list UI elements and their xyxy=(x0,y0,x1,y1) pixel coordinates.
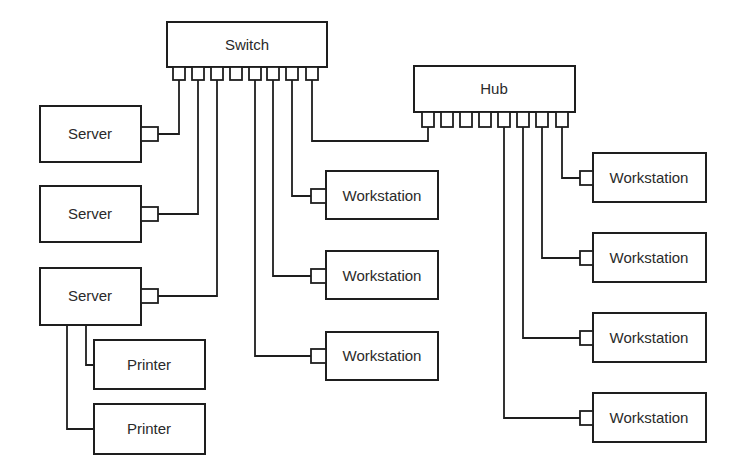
server-port xyxy=(141,289,158,303)
server-label: Server xyxy=(68,125,112,142)
network-diagram: Switch Hub Server xyxy=(0,0,738,472)
hub-node[interactable]: Hub xyxy=(414,66,575,127)
wire-switch-hub xyxy=(312,80,428,141)
hub-workstation-node-4[interactable]: Workstation xyxy=(580,393,706,442)
server-label: Server xyxy=(68,205,112,222)
wire-server-printer-2 xyxy=(67,325,94,429)
switch-port-5 xyxy=(249,67,261,80)
workstation-label: Workstation xyxy=(343,347,422,364)
switch-port-4 xyxy=(230,67,242,80)
hub-port-3 xyxy=(460,112,472,127)
workstation-label: Workstation xyxy=(610,249,689,266)
switch-port-6 xyxy=(267,67,279,80)
hub-workstation-node-1[interactable]: Workstation xyxy=(580,153,706,202)
printer-label: Printer xyxy=(127,420,171,437)
switch-workstation-node-2[interactable]: Workstation xyxy=(311,251,438,299)
hub-port-7 xyxy=(536,112,548,127)
switch-port-2 xyxy=(192,67,204,80)
switch-ports xyxy=(173,67,318,80)
workstation-label: Workstation xyxy=(610,409,689,426)
hub-port-6 xyxy=(517,112,529,127)
wire-server-printer-1 xyxy=(86,325,94,365)
wire-switch-server-3 xyxy=(158,80,217,296)
switch-port-8 xyxy=(306,67,318,80)
workstation-label: Workstation xyxy=(343,187,422,204)
switch-label: Switch xyxy=(225,36,269,53)
hub-port-1 xyxy=(422,112,434,127)
switch-node[interactable]: Switch xyxy=(167,22,327,80)
workstation-port xyxy=(580,251,593,265)
wire-switch-workstation-3 xyxy=(255,80,311,356)
hub-ports xyxy=(422,112,568,127)
workstation-port xyxy=(580,331,593,345)
hub-port-8 xyxy=(556,112,568,127)
server-node-1[interactable]: Server xyxy=(40,106,158,162)
workstation-label: Workstation xyxy=(343,267,422,284)
wire-hub-workstation-1 xyxy=(562,127,580,178)
hub-port-5 xyxy=(498,112,510,127)
switch-port-1 xyxy=(173,67,185,80)
hub-label: Hub xyxy=(480,80,508,97)
server-label: Server xyxy=(68,287,112,304)
server-node-3[interactable]: Server xyxy=(40,268,158,325)
workstation-port xyxy=(580,171,593,185)
wire-switch-workstation-1 xyxy=(292,80,311,196)
hub-workstation-node-2[interactable]: Workstation xyxy=(580,233,706,282)
workstation-label: Workstation xyxy=(610,169,689,186)
workstation-port xyxy=(311,189,326,203)
server-port xyxy=(141,207,158,221)
workstation-port xyxy=(311,269,326,283)
wire-switch-server-2 xyxy=(158,80,198,214)
printer-node-2[interactable]: Printer xyxy=(94,404,205,454)
workstation-port xyxy=(311,349,326,363)
server-port xyxy=(141,127,158,141)
wire-hub-workstation-2 xyxy=(542,127,580,258)
switch-port-3 xyxy=(211,67,223,80)
printer-node-1[interactable]: Printer xyxy=(94,340,205,389)
switch-workstation-node-1[interactable]: Workstation xyxy=(311,171,438,219)
hub-workstation-node-3[interactable]: Workstation xyxy=(580,313,706,362)
switch-workstation-node-3[interactable]: Workstation xyxy=(311,332,438,380)
wire-switch-server-1 xyxy=(158,80,179,134)
switch-port-7 xyxy=(286,67,298,80)
printer-label: Printer xyxy=(127,356,171,373)
wire-hub-workstation-3 xyxy=(523,127,580,338)
hub-port-2 xyxy=(441,112,453,127)
workstation-label: Workstation xyxy=(610,329,689,346)
workstation-port xyxy=(580,411,593,425)
server-node-2[interactable]: Server xyxy=(40,186,158,242)
hub-port-4 xyxy=(479,112,491,127)
